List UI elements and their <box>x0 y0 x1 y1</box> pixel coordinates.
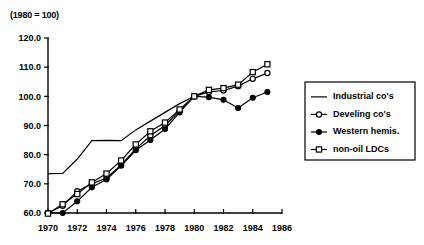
y-axis-tick-label: 70.0 <box>23 179 41 189</box>
legend-item-label: non-oil LDCs <box>333 144 389 154</box>
data-point-marker <box>221 97 226 102</box>
data-point-marker <box>60 202 65 207</box>
x-axis-tick-label: 1986 <box>272 223 292 233</box>
x-axis-tick-label: 1972 <box>67 223 87 233</box>
data-point-marker <box>265 62 270 67</box>
legend-item-label: Develing co's <box>333 109 391 119</box>
chart-figure: (1980 = 100) 60.070.080.090.0100.0110.01… <box>0 0 424 245</box>
data-point-marker <box>316 112 321 117</box>
data-point-marker <box>250 76 255 81</box>
series-4 <box>45 62 270 217</box>
y-axis-tick-label: 120.0 <box>18 33 41 43</box>
data-point-marker <box>236 82 241 87</box>
data-point-marker <box>45 211 50 216</box>
legend-item-label: Industrial co's <box>333 91 394 101</box>
x-axis-tick-label: 1970 <box>38 223 58 233</box>
data-point-marker <box>177 107 182 112</box>
y-axis-tick-label: 80.0 <box>23 150 41 160</box>
series-line <box>48 92 267 213</box>
chart-legend: Industrial co'sDeveling co'sWestern hemi… <box>305 82 415 160</box>
x-axis-tick-label: 1982 <box>213 223 233 233</box>
data-point-marker <box>89 185 94 190</box>
data-point-marker <box>162 120 167 125</box>
data-point-marker <box>192 94 197 99</box>
x-axis-tick-label: 1984 <box>243 223 263 233</box>
data-point-marker <box>104 177 109 182</box>
data-point-marker <box>148 138 153 143</box>
data-point-marker <box>221 86 226 91</box>
chart-plot-area: 60.070.080.090.0100.0110.0120.0197019721… <box>0 0 424 245</box>
data-point-marker <box>236 106 241 111</box>
data-point-marker <box>75 199 80 204</box>
data-point-marker <box>75 191 80 196</box>
data-point-marker <box>60 211 65 216</box>
legend-item-label: Western hemis. <box>333 126 399 136</box>
data-point-marker <box>163 127 168 132</box>
series-line <box>48 73 267 213</box>
data-point-marker <box>265 89 270 94</box>
data-point-marker <box>250 95 255 100</box>
x-axis-tick-label: 1974 <box>96 223 116 233</box>
data-point-marker <box>119 158 124 163</box>
y-axis-tick-label: 100.0 <box>18 92 41 102</box>
data-point-marker <box>250 70 255 75</box>
data-point-marker <box>206 95 211 100</box>
data-point-marker <box>104 171 109 176</box>
data-point-marker <box>317 129 322 134</box>
x-axis-tick-label: 1976 <box>126 223 146 233</box>
data-point-marker <box>133 142 138 147</box>
y-axis-tick-label: 110.0 <box>19 62 41 72</box>
y-axis-tick-label: 60.0 <box>23 208 41 218</box>
x-axis-tick-label: 1978 <box>155 223 175 233</box>
data-point-marker <box>316 147 321 152</box>
data-point-marker <box>89 180 94 185</box>
y-axis-tick-label: 90.0 <box>23 121 41 131</box>
chart-subtitle: (1980 = 100) <box>10 10 59 20</box>
data-point-marker <box>265 70 270 75</box>
data-point-marker <box>148 129 153 134</box>
data-point-marker <box>133 148 138 153</box>
x-axis-tick-label: 1980 <box>184 223 204 233</box>
data-point-marker <box>206 87 211 92</box>
data-point-marker <box>119 163 124 168</box>
